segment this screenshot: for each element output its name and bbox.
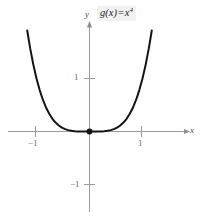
function-exponent: 4 (130, 6, 134, 14)
x-tick-label-pos1: 1 (138, 139, 143, 148)
x-tick-label-neg1: −1 (28, 139, 38, 148)
y-axis-label: y (85, 10, 89, 19)
function-equation-label: g(x)=x4 (97, 6, 136, 21)
function-argument: (x) (105, 7, 117, 18)
origin-point-marker (87, 129, 93, 135)
y-tick-label-neg1: −1 (70, 180, 80, 189)
function-plot (0, 0, 204, 219)
equals-sign: = (117, 7, 125, 18)
y-tick-label-pos1: 1 (74, 73, 79, 82)
x-axis-label: x (190, 126, 194, 135)
